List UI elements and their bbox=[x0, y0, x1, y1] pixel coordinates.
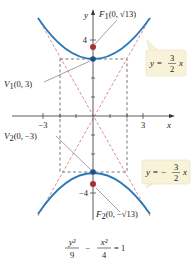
vertex-2-label: V2(0, −3) bbox=[4, 131, 37, 143]
asymptote-positive-num: 3 bbox=[170, 53, 174, 63]
v1-leader bbox=[44, 61, 90, 82]
lower-branch bbox=[38, 173, 150, 214]
y-axis-label: y bbox=[83, 10, 88, 20]
svg-text:y²: y² bbox=[68, 237, 76, 247]
asymptote-negative-var: x bbox=[182, 167, 187, 177]
svg-text:−: − bbox=[86, 243, 91, 253]
svg-text:9: 9 bbox=[70, 250, 74, 260]
vertex-2-point bbox=[90, 169, 96, 175]
focus-1-label: F1(0, √13) bbox=[98, 9, 136, 21]
f1-leader bbox=[95, 20, 117, 44]
asymptote-negative-lhs: y = − bbox=[145, 167, 167, 177]
focus-1-point bbox=[90, 44, 96, 50]
svg-text:4: 4 bbox=[102, 250, 107, 260]
vertex-1-label: V1(0, 3) bbox=[4, 79, 32, 91]
x-tick-neg3: −3 bbox=[38, 120, 47, 130]
focus-2-label: F2(0, −√13) bbox=[95, 209, 138, 221]
asymptote-negative-den: 2 bbox=[174, 173, 178, 183]
asymptote-positive-callout: y = 3 2 x bbox=[146, 40, 186, 76]
hyperbola-equation: y² 9 − x² 4 = 1 bbox=[65, 237, 125, 260]
y-tick-4: 4 bbox=[83, 35, 88, 45]
y-axis-arrow-icon bbox=[91, 9, 95, 15]
upper-branch bbox=[38, 18, 150, 59]
svg-text:= 1: = 1 bbox=[114, 243, 125, 253]
asymptote-positive-lhs: y = bbox=[149, 58, 162, 68]
asymptote-negative-callout: y = − 3 2 x bbox=[142, 160, 190, 188]
x-tick-3: 3 bbox=[141, 120, 145, 130]
y-tick-neg4: −4 bbox=[79, 188, 89, 198]
hyperbola-diagram: y = 3 2 x y = − 3 2 x y x −3 3 4 −4 F1(0… bbox=[0, 0, 195, 264]
v2-leader bbox=[56, 136, 91, 170]
x-axis-arrow-icon bbox=[169, 114, 175, 118]
asymptote-positive-var: x bbox=[178, 58, 183, 68]
focus-2-point bbox=[90, 181, 96, 187]
x-axis-label: x bbox=[166, 120, 171, 130]
svg-text:x²: x² bbox=[100, 237, 108, 247]
vertex-1-point bbox=[90, 56, 96, 62]
asymptote-positive-den: 2 bbox=[170, 64, 174, 74]
asymptote-negative-num: 3 bbox=[174, 162, 178, 172]
